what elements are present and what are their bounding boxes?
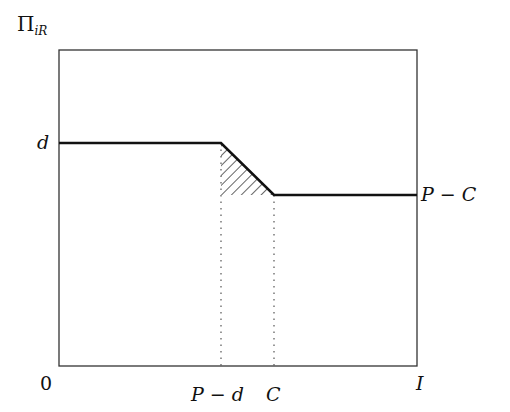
y-axis-label-main: Π — [17, 12, 34, 36]
plot-frame — [59, 50, 417, 366]
x-tick-p-minus-d: P − d — [191, 383, 244, 405]
y-tick-d: d — [37, 131, 49, 153]
y-axis-label: ΠiR — [17, 12, 47, 36]
right-label-p-minus-c: P − C — [421, 183, 476, 205]
y-axis-label-sub: iR — [34, 24, 47, 38]
payoff-diagram — [0, 0, 510, 412]
x-tick-c: C — [266, 383, 281, 405]
origin-label: 0 — [40, 372, 52, 394]
x-axis-label: I — [416, 372, 424, 394]
